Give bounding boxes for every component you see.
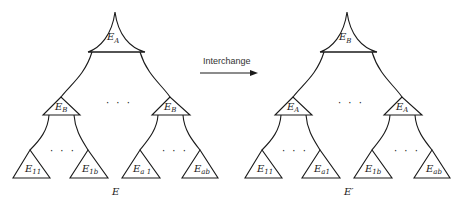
ellipsis-middle: · · · <box>338 97 364 108</box>
ellipsis-leaves-1: · · · <box>282 145 308 156</box>
edge-mid-left-a <box>30 115 49 150</box>
arrow-head-icon <box>250 70 258 76</box>
right-tree-caption: E′ <box>343 186 354 197</box>
ellipsis-middle: · · · <box>106 97 132 108</box>
root-triangle <box>320 12 377 52</box>
edge-root-left <box>293 52 324 97</box>
edge-mid-left-b <box>74 115 88 150</box>
right-tree: EB EA EA · · · E11 Ea1 E1b Eab · · · · ·… <box>245 12 450 197</box>
edge-mid-left-a <box>262 115 281 150</box>
edge-root-right <box>372 52 402 97</box>
ellipsis-leaves-2: · · · <box>394 145 420 156</box>
edge-root-right <box>140 52 170 97</box>
edge-root-left <box>61 52 92 97</box>
root-triangle <box>88 12 145 52</box>
left-tree-caption: E <box>111 186 120 197</box>
ellipsis-leaves-1: · · · <box>50 145 76 156</box>
edge-mid-right-a <box>372 115 390 150</box>
edge-mid-right-a <box>140 115 158 150</box>
interchange-diagram: EA EB EB · · · E11 E1b Ea 1 Eab · · · · … <box>0 0 455 206</box>
interchange-arrow: Interchange <box>200 56 258 76</box>
edge-mid-left-b <box>306 115 320 150</box>
ellipsis-leaves-2: · · · <box>162 145 188 156</box>
arrow-label: Interchange <box>203 56 251 66</box>
left-tree: EA EB EB · · · E11 E1b Ea 1 Eab · · · · … <box>13 12 218 197</box>
